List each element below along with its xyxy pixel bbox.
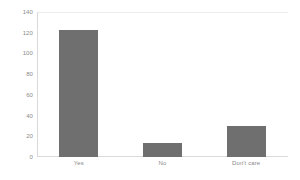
x-axis-category-label: Don't care: [204, 159, 288, 167]
y-axis-tick-label: 0: [0, 154, 33, 160]
bars-layer: [37, 12, 288, 157]
y-axis-tick-label: 100: [0, 50, 33, 56]
bar-slot: [121, 12, 205, 157]
bar[interactable]: [227, 126, 266, 157]
bar-slot: [204, 12, 288, 157]
y-axis-tick-label: 60: [0, 92, 33, 98]
bar-slot: [37, 12, 121, 157]
x-axis-category-label: No: [121, 159, 205, 167]
y-axis-tick-label: 40: [0, 113, 33, 119]
bar[interactable]: [143, 143, 182, 158]
y-axis-tick-label: 80: [0, 71, 33, 77]
bar[interactable]: [59, 30, 98, 157]
x-axis-category-label: Yes: [37, 159, 121, 167]
bar-chart: 140120100806040200 YesNoDon't care: [0, 0, 300, 180]
y-axis-tick-labels: 140120100806040200: [0, 0, 33, 180]
y-axis-tick-label: 120: [0, 30, 33, 36]
y-axis-tick-label: 20: [0, 133, 33, 139]
x-axis-category-labels: YesNoDon't care: [37, 159, 288, 173]
y-axis-tick-label: 140: [0, 9, 33, 15]
